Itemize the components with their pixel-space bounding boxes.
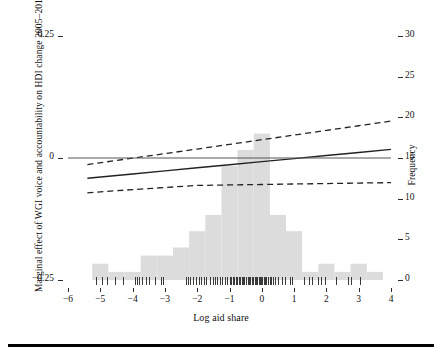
y-axis-left-tick-mark [58,36,63,37]
rug-tick [227,277,228,285]
rug-tick [96,277,97,285]
rug-tick [290,277,291,285]
x-axis-tick-label: −1 [218,294,242,304]
rug-tick [321,277,322,285]
histogram-bar [92,264,108,280]
histogram-bar [238,150,254,280]
y-axis-left-tick-label: 0.25 [10,29,54,39]
y-axis-right-tick-label: 20 [405,110,415,120]
rug-tick [196,277,197,285]
histogram-bar [221,166,237,280]
y-axis-right-tick-label: 5 [405,232,410,242]
rug-tick [102,277,103,285]
histogram-bar [367,272,383,280]
x-axis-tick-mark [391,288,392,292]
rug-tick [161,277,162,285]
x-axis-tick-mark [100,288,101,292]
x-axis-tick-mark [262,288,263,292]
rug-tick [123,277,124,285]
x-axis-tick-label: −3 [153,294,177,304]
rug-tick [188,277,189,285]
histogram-bars [92,134,383,280]
rug-tick [193,277,194,285]
rug-tick [270,277,271,285]
y-axis-left-tick-label: −0.25 [10,273,54,283]
rug-tick [210,277,211,285]
rug-tick [360,277,361,285]
rug-tick [240,277,241,285]
y-axis-right-tick-label: 25 [405,70,415,80]
x-axis-tick-label: 2 [314,294,338,304]
rug-tick [217,277,218,285]
rug-tick [204,277,205,285]
rug-tick [107,277,108,285]
rug-tick [273,277,274,285]
y-axis-right-title: Frequency [407,105,417,225]
rug-tick [206,277,207,285]
rug-tick [275,277,276,285]
rug-tick [163,277,164,285]
rug-tick [201,277,202,285]
rug-tick [336,277,337,285]
x-axis-tick-mark [133,288,134,292]
y-axis-left-tick-label: 0 [10,151,54,161]
rug-tick [304,277,305,285]
histogram-bar [125,272,141,280]
histogram-bar [173,247,189,280]
y-axis-right-tick-label: 15 [405,151,415,161]
rug-tick [155,277,156,285]
plot-svg [68,36,391,280]
figure-canvas: Marginal effect of WGI voice and account… [0,0,442,359]
rug-tick [351,277,352,285]
x-axis-tick-label: 0 [250,294,274,304]
x-axis-tick-label: −6 [56,294,80,304]
x-axis-tick-mark [326,288,327,292]
y-axis-right-tick-mark [398,36,403,37]
rug-tick [318,277,319,285]
histogram-bar [254,134,270,280]
x-axis-tick-label: −5 [88,294,112,304]
x-axis-tick-mark [197,288,198,292]
rug-tick [244,277,245,285]
y-axis-right-tick-mark [398,117,403,118]
x-axis-tick-mark [230,288,231,292]
histogram-bar [189,231,205,280]
y-axis-right-tick-label: 10 [405,192,415,202]
histogram-bar [157,256,173,280]
rug-tick [115,277,116,285]
rug-tick [135,277,136,285]
x-axis-tick-mark [165,288,166,292]
rug-tick [190,277,191,285]
rug-tick [282,277,283,285]
x-axis-tick-label: 3 [347,294,371,304]
rug-tick [271,277,272,285]
y-axis-right-tick-mark [398,239,403,240]
x-axis-tick-label: 4 [379,294,403,304]
rug-tick [309,277,310,285]
y-axis-left-tick-mark [58,158,63,159]
rug-tick [149,277,150,285]
y-axis-right-tick-mark [398,77,403,78]
x-axis-tick-mark [359,288,360,292]
rug-tick [325,277,326,285]
rug-tick [139,277,140,285]
y-axis-right-tick-mark [398,158,403,159]
rug-tick [137,277,138,285]
rug-tick [146,277,147,285]
y-axis-right-tick-label: 0 [405,273,410,283]
bottom-rule [8,344,434,347]
rug-tick [348,277,349,285]
histogram-bar [351,264,367,280]
rug-tick [292,277,293,285]
rug-tick [215,277,216,285]
x-axis-tick-mark [68,288,69,292]
rug-tick [278,277,279,285]
rug-tick [222,277,223,285]
rug-tick [285,277,286,285]
rug-tick [268,277,269,285]
y-axis-left-tick-mark [58,280,63,281]
rug-tick [312,277,313,285]
x-axis-title: Log aid share [0,312,442,323]
rug-tick [199,277,200,285]
rug-tick [142,277,143,285]
